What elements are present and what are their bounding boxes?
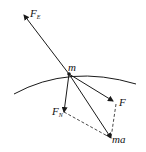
net-force-label: ma: [112, 134, 125, 145]
net-force-arrow: [69, 74, 111, 138]
electric-force-arrow: [24, 15, 69, 74]
diagram-graphic: [0, 0, 146, 152]
trajectory-curve: [14, 76, 136, 94]
force-diagram: FE m F FN ma: [0, 0, 146, 152]
force-label: F: [119, 97, 126, 108]
normal-force-label: FN: [52, 106, 63, 118]
mass-label: m: [68, 62, 76, 73]
force-arrow: [69, 74, 113, 101]
dashed-line-fn-to-ma: [64, 112, 111, 138]
normal-force-arrow: [64, 74, 69, 112]
electric-force-label: FE: [30, 8, 40, 20]
